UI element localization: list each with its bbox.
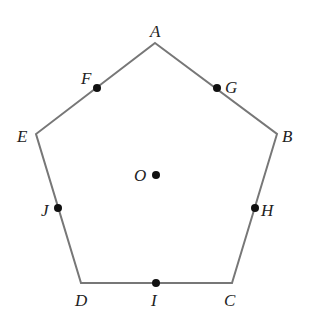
point-o <box>152 171 160 179</box>
label-h: H <box>260 201 275 220</box>
points-group <box>54 84 259 287</box>
label-i: I <box>150 291 158 310</box>
point-f <box>93 84 101 92</box>
label-j: J <box>41 201 50 220</box>
point-g <box>213 84 221 92</box>
point-i <box>152 279 160 287</box>
point-h <box>251 204 259 212</box>
label-d: D <box>74 291 88 310</box>
label-e: E <box>16 127 28 146</box>
label-o: O <box>134 166 146 185</box>
label-g: G <box>225 78 237 97</box>
pentagon-outline <box>36 43 277 283</box>
label-a: A <box>149 22 161 41</box>
pentagon-diagram: ABCDEFGHIJO <box>0 0 316 326</box>
label-c: C <box>224 291 236 310</box>
label-b: B <box>282 127 293 146</box>
label-f: F <box>80 69 92 88</box>
point-j <box>54 204 62 212</box>
labels-group: ABCDEFGHIJO <box>16 22 293 310</box>
